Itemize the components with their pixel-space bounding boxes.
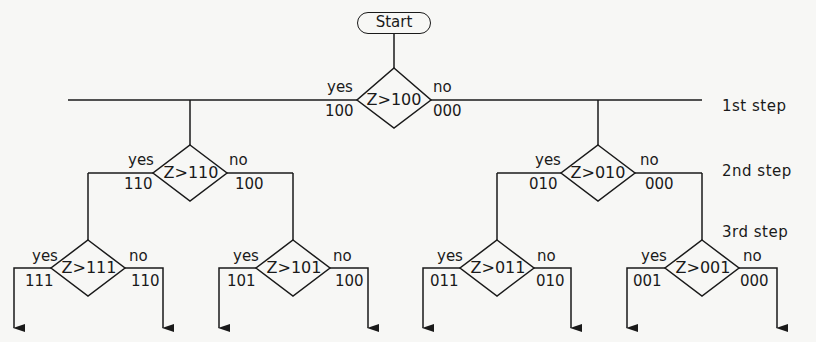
code-label: 000 (433, 104, 462, 119)
condition-z100: Z>100 (367, 92, 422, 108)
yes-label: yes (32, 249, 58, 264)
yes-label: yes (128, 153, 154, 168)
no-label: no (129, 249, 148, 264)
code-label: 111 (25, 274, 54, 289)
condition-z010: Z>010 (571, 165, 626, 181)
condition-z101: Z>101 (267, 260, 322, 276)
code-label: 100 (235, 177, 264, 192)
code-label: 010 (529, 177, 558, 192)
code-label: 011 (430, 274, 459, 289)
start-terminal: Start (357, 12, 431, 34)
no-label: no (537, 249, 556, 264)
condition-z001: Z>001 (676, 260, 731, 276)
no-label: no (433, 80, 452, 95)
step-label-2: 2nd step (722, 164, 792, 179)
yes-label: yes (641, 249, 667, 264)
no-label: no (640, 153, 659, 168)
code-label: 000 (740, 274, 769, 289)
condition-z011: Z>011 (471, 260, 526, 276)
code-label: 001 (633, 274, 662, 289)
yes-label: yes (327, 80, 353, 95)
code-label: 110 (124, 177, 153, 192)
code-label: 010 (536, 274, 565, 289)
no-label: no (333, 249, 352, 264)
code-label: 110 (131, 274, 160, 289)
flowchart-canvas: Start 1st step 2nd step 3rd step Z>100 y… (0, 0, 816, 342)
step-label-3: 3rd step (722, 225, 788, 240)
code-label: 000 (645, 177, 674, 192)
code-label: 100 (325, 104, 354, 119)
no-label: no (229, 153, 248, 168)
yes-label: yes (437, 249, 463, 264)
step-label-1: 1st step (722, 99, 786, 114)
yes-label: yes (535, 153, 561, 168)
code-label: 101 (227, 274, 256, 289)
condition-z111: Z>111 (62, 260, 117, 276)
yes-label: yes (233, 249, 259, 264)
no-label: no (743, 249, 762, 264)
flowchart-lines (0, 0, 816, 342)
code-label: 100 (335, 274, 364, 289)
condition-z110: Z>110 (164, 165, 219, 181)
